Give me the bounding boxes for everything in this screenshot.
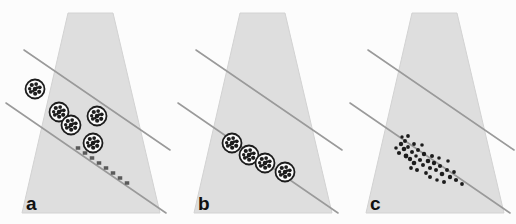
particle-speck <box>286 169 289 172</box>
small-particle-dot <box>430 154 434 158</box>
tapered-channel-shape <box>194 13 332 213</box>
speckled-particle <box>84 134 103 153</box>
particle-speck <box>34 82 38 86</box>
panel-label-c: c <box>370 194 381 213</box>
panel-label-b: b <box>198 194 210 213</box>
particle-speck <box>234 144 238 148</box>
particle-speck <box>70 118 74 122</box>
panel-c: c <box>344 0 516 224</box>
small-particle-dot <box>422 152 426 156</box>
small-particle-dot <box>404 154 409 159</box>
particle-speck <box>90 114 93 117</box>
micro-particle-marker <box>125 181 130 185</box>
small-particle-dot <box>418 158 422 162</box>
particle-speck <box>235 139 239 143</box>
particle-speck <box>99 117 103 121</box>
particle-speck <box>94 117 97 120</box>
small-particle-dot <box>412 142 416 146</box>
small-particle-dot <box>435 178 439 182</box>
small-particle-dot <box>432 161 436 165</box>
particle-speck <box>72 122 75 125</box>
particle-speck <box>28 87 31 90</box>
particle-speck <box>287 173 291 177</box>
particle-speck <box>282 173 285 176</box>
particle-speck <box>284 165 288 169</box>
particle-speck <box>260 157 264 161</box>
panel-b: b <box>172 0 344 224</box>
particle-speck <box>36 86 39 89</box>
particle-speck <box>266 160 269 163</box>
small-particle-dot <box>408 157 412 161</box>
micro-particle-marker <box>104 166 109 170</box>
micro-particle-marker <box>118 176 123 180</box>
particle-speck <box>73 126 77 130</box>
particle-speck <box>54 106 58 110</box>
particle-speck <box>62 108 66 112</box>
particle-speck <box>61 113 65 117</box>
panel-canvas-c <box>344 0 516 224</box>
particle-speck <box>233 140 236 143</box>
particle-speck <box>88 137 92 141</box>
speckled-particle <box>223 134 242 153</box>
small-particle-dot <box>437 156 441 160</box>
small-particle-dot <box>415 168 419 172</box>
particle-speck <box>95 144 99 148</box>
small-particle-dot <box>416 148 420 152</box>
particle-speck <box>94 140 97 143</box>
small-particle-dot <box>399 142 403 146</box>
particle-speck <box>96 109 100 113</box>
particle-speck <box>246 156 249 159</box>
tapered-channel-shape <box>366 13 504 213</box>
particle-speck <box>225 141 228 144</box>
particle-speck <box>90 144 93 147</box>
small-particle-dot <box>406 145 410 149</box>
panel-a: a <box>0 0 172 224</box>
small-particle-dot <box>421 163 425 167</box>
small-particle-dot <box>394 146 398 150</box>
speckled-particle <box>256 154 275 173</box>
small-particle-dot <box>406 134 410 138</box>
small-particle-dot <box>412 161 417 166</box>
particle-speck <box>229 144 232 147</box>
particle-speck <box>68 126 71 129</box>
small-particle-dot <box>410 150 414 154</box>
particle-speck <box>264 156 268 160</box>
particle-speck <box>288 168 292 172</box>
figure-root: abc <box>0 0 516 224</box>
particle-speck <box>251 156 255 160</box>
speckled-particle <box>26 80 45 99</box>
small-particle-dot <box>446 159 450 163</box>
micro-particle-marker <box>76 146 81 150</box>
particle-speck <box>258 161 261 164</box>
particle-speck <box>66 119 70 123</box>
particle-speck <box>231 136 235 140</box>
particle-speck <box>98 113 101 116</box>
small-particle-dot <box>434 168 438 172</box>
particle-speck <box>278 170 281 173</box>
small-particle-dot <box>438 164 442 168</box>
small-particle-dot <box>454 178 458 182</box>
particle-speck <box>37 90 41 94</box>
particle-speck <box>262 164 265 167</box>
particle-speck <box>244 149 248 153</box>
small-particle-dot <box>397 151 401 155</box>
particle-speck <box>248 148 252 152</box>
particle-speck <box>92 110 96 114</box>
panel-label-a: a <box>26 194 37 213</box>
particle-speck <box>267 164 271 168</box>
particle-speck <box>242 153 245 156</box>
particle-speck <box>30 83 34 87</box>
micro-particle-marker <box>111 171 116 175</box>
particle-speck <box>38 85 42 89</box>
micro-particle-marker <box>90 156 95 160</box>
particle-speck <box>58 105 62 109</box>
small-particle-dot <box>424 171 428 175</box>
micro-particle-marker <box>83 151 88 155</box>
particle-speck <box>100 112 104 116</box>
particle-speck <box>92 136 96 140</box>
small-particle-dot <box>420 143 424 147</box>
small-particle-dot <box>440 172 445 177</box>
particle-speck <box>64 123 67 126</box>
particle-speck <box>268 159 272 163</box>
particle-speck <box>60 109 63 112</box>
